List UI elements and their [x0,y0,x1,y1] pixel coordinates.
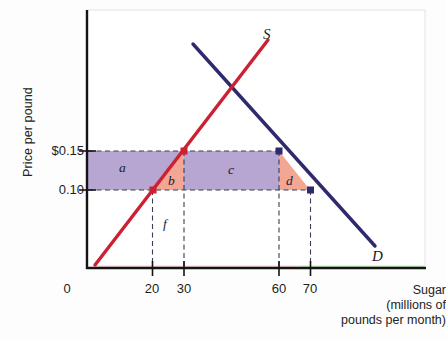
region-label-f: f [163,216,167,232]
marker-point-supply-q20 [150,187,157,194]
marker-point-demand-q70 [307,187,314,194]
y-tick-label-0.15: $0.15 [28,143,84,158]
demand-curve-label: D [372,248,383,265]
supply-demand-chart: Price per pound $0.15 0.10 0 20 30 60 70… [0,0,446,339]
region-label-b: b [168,173,175,189]
supply-curve-label: S [263,26,271,43]
region-label-d: d [286,173,293,189]
y-tick-label-0.10: 0.10 [28,182,84,197]
x-tick-label-20: 20 [139,281,165,296]
plot-background [87,10,425,268]
x-axis-title-line-3: pounds per month) [282,313,446,328]
region-label-a: a [119,160,126,176]
x-axis-title: Sugar (millions of pounds per month) [282,283,446,328]
x-tick-label-30: 30 [171,281,197,296]
x-axis-title-line-1: Sugar [282,283,446,298]
y-axis-title: Price per pound [21,62,35,202]
x-tick-label-0: 0 [54,281,80,296]
marker-point-demand-q60 [276,148,283,155]
x-axis-title-line-2: (millions of [282,298,446,313]
region-label-c: c [228,162,234,178]
marker-point-supply-q30 [181,148,188,155]
